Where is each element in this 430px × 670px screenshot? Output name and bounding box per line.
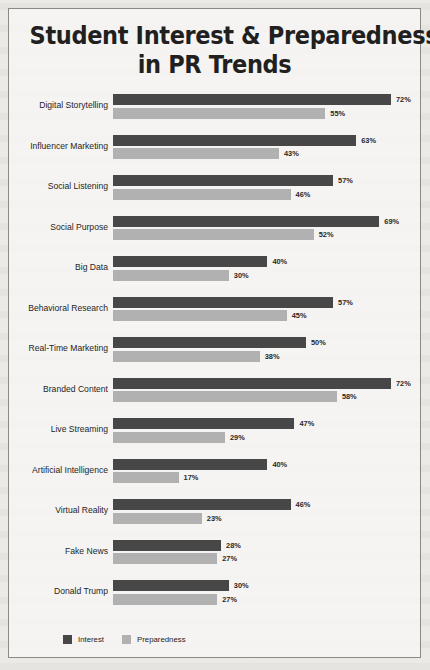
- bar-value-label: 69%: [384, 217, 399, 226]
- bar-interest[interactable]: [113, 378, 391, 389]
- bar-line: 63%: [113, 135, 418, 146]
- bar-value-label: 28%: [226, 541, 241, 550]
- bar-preparedness[interactable]: [113, 432, 225, 443]
- category-label: Social Purpose: [0, 221, 108, 233]
- category-label: Digital Storytelling: [0, 99, 108, 111]
- bar-value-label: 38%: [265, 352, 280, 361]
- bar-group: 72%55%: [113, 94, 418, 121]
- bar-value-label: 30%: [234, 581, 249, 590]
- legend-label: Interest: [78, 635, 104, 644]
- category-label: Social Listening: [0, 180, 108, 192]
- bar-line: 57%: [113, 175, 418, 186]
- bar-preparedness[interactable]: [113, 594, 217, 605]
- chart-row: Artificial Intelligence40%17%: [9, 456, 422, 497]
- legend-item-interest[interactable]: Interest: [63, 635, 104, 644]
- bar-interest[interactable]: [113, 418, 294, 429]
- legend-item-preparedness[interactable]: Preparedness: [122, 635, 186, 644]
- bar-value-label: 29%: [230, 433, 245, 442]
- bar-interest[interactable]: [113, 540, 221, 551]
- category-label: Artificial Intelligence: [0, 464, 108, 476]
- bar-value-label: 58%: [342, 392, 357, 401]
- bar-line: 57%: [113, 297, 418, 308]
- bar-value-label: 17%: [184, 473, 199, 482]
- category-label: Virtual Reality: [0, 504, 108, 516]
- legend-swatch-icon: [122, 635, 131, 644]
- bar-line: 40%: [113, 459, 418, 470]
- bar-interest[interactable]: [113, 459, 267, 470]
- bar-group: 63%43%: [113, 135, 418, 162]
- bar-preparedness[interactable]: [113, 553, 217, 564]
- chart-row: Real-Time Marketing50%38%: [9, 334, 422, 375]
- bar-line: 72%: [113, 94, 418, 105]
- chart-row: Behavioral Research57%45%: [9, 294, 422, 335]
- bar-line: 52%: [113, 229, 418, 240]
- bar-preparedness[interactable]: [113, 189, 291, 200]
- bar-preparedness[interactable]: [113, 270, 229, 281]
- chart-row: Fake News28%27%: [9, 537, 422, 578]
- bar-line: 45%: [113, 310, 418, 321]
- bar-value-label: 23%: [207, 514, 222, 523]
- category-label: Big Data: [0, 261, 108, 273]
- chart-frame: Student Interest & Preparedness in PR Tr…: [8, 8, 421, 658]
- bar-preparedness[interactable]: [113, 391, 337, 402]
- chart-row: Digital Storytelling72%55%: [9, 91, 422, 132]
- bar-preparedness[interactable]: [113, 229, 314, 240]
- bar-group: 72%58%: [113, 378, 418, 405]
- bar-value-label: 40%: [272, 460, 287, 469]
- bar-preparedness[interactable]: [113, 472, 179, 483]
- bar-preparedness[interactable]: [113, 513, 202, 524]
- chart-row: Social Purpose69%52%: [9, 213, 422, 254]
- legend-swatch-icon: [63, 635, 72, 644]
- bar-interest[interactable]: [113, 216, 379, 227]
- category-label: Live Streaming: [0, 423, 108, 435]
- bar-value-label: 45%: [292, 311, 307, 320]
- bar-line: 47%: [113, 418, 418, 429]
- bar-line: 38%: [113, 351, 418, 362]
- bar-line: 27%: [113, 553, 418, 564]
- chart-row: Virtual Reality46%23%: [9, 496, 422, 537]
- chart-row: Branded Content72%58%: [9, 375, 422, 416]
- bar-group: 30%27%: [113, 580, 418, 607]
- bar-line: 28%: [113, 540, 418, 551]
- bar-line: 50%: [113, 337, 418, 348]
- bar-line: 55%: [113, 108, 418, 119]
- bar-group: 46%23%: [113, 499, 418, 526]
- bar-value-label: 47%: [299, 419, 314, 428]
- bar-preparedness[interactable]: [113, 108, 325, 119]
- bar-preparedness[interactable]: [113, 148, 279, 159]
- bar-value-label: 40%: [272, 257, 287, 266]
- bar-group: 69%52%: [113, 216, 418, 243]
- chart-row: Social Listening57%46%: [9, 172, 422, 213]
- bar-value-label: 57%: [338, 298, 353, 307]
- bar-line: 30%: [113, 580, 418, 591]
- category-label: Behavioral Research: [0, 302, 108, 314]
- bar-line: 69%: [113, 216, 418, 227]
- bar-line: 46%: [113, 499, 418, 510]
- bar-preparedness[interactable]: [113, 310, 287, 321]
- bar-interest[interactable]: [113, 94, 391, 105]
- bar-value-label: 72%: [396, 95, 411, 104]
- bar-value-label: 50%: [311, 338, 326, 347]
- bar-interest[interactable]: [113, 135, 356, 146]
- legend-label: Preparedness: [137, 635, 186, 644]
- bar-group: 28%27%: [113, 540, 418, 567]
- bar-line: 30%: [113, 270, 418, 281]
- category-label: Donald Trump: [0, 585, 108, 597]
- bar-line: 72%: [113, 378, 418, 389]
- bar-interest[interactable]: [113, 499, 291, 510]
- bar-value-label: 30%: [234, 271, 249, 280]
- category-label: Branded Content: [0, 383, 108, 395]
- chart-row: Live Streaming47%29%: [9, 415, 422, 456]
- chart-row: Influencer Marketing63%43%: [9, 132, 422, 173]
- bar-interest[interactable]: [113, 337, 306, 348]
- bar-interest[interactable]: [113, 256, 267, 267]
- bar-interest[interactable]: [113, 175, 333, 186]
- bar-preparedness[interactable]: [113, 351, 260, 362]
- category-label: Fake News: [0, 545, 108, 557]
- bar-interest[interactable]: [113, 580, 229, 591]
- bar-line: 40%: [113, 256, 418, 267]
- bar-line: 17%: [113, 472, 418, 483]
- bar-line: 58%: [113, 391, 418, 402]
- bar-interest[interactable]: [113, 297, 333, 308]
- bar-value-label: 46%: [296, 190, 311, 199]
